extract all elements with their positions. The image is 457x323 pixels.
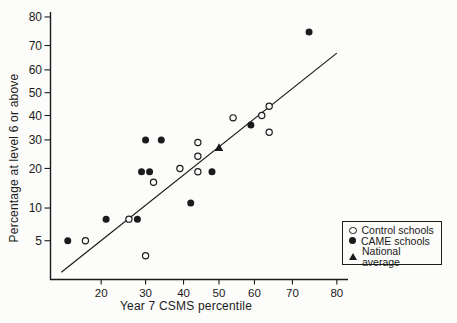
- data-point-control-schools: [195, 153, 201, 159]
- data-point-control-schools: [266, 129, 272, 135]
- data-point-came-schools: [146, 168, 153, 175]
- x-tick-label: 60: [248, 287, 261, 299]
- x-tick-label: 20: [95, 287, 108, 299]
- legend-label-national-average: National average: [362, 246, 439, 267]
- legend-item-national-average: National average: [349, 246, 439, 267]
- open-circle-icon: [349, 227, 357, 235]
- data-point-came-schools: [208, 168, 215, 175]
- x-tick-label: 80: [330, 287, 343, 299]
- data-point-control-schools: [82, 238, 88, 244]
- x-axis-title: Year 7 CSMS percentile: [120, 299, 252, 313]
- scatter-plot-figure: 5102030405060708020304050607080 Percenta…: [0, 0, 457, 323]
- y-tick-label: 50: [29, 86, 43, 100]
- y-tick-label: 40: [29, 109, 43, 123]
- data-point-came-schools: [134, 216, 141, 223]
- data-point-came-schools: [247, 121, 254, 128]
- trend-line: [61, 53, 337, 272]
- data-point-came-schools: [103, 216, 110, 223]
- data-point-control-schools: [259, 112, 265, 118]
- data-point-control-schools: [150, 179, 156, 185]
- y-tick-label: 30: [29, 133, 43, 147]
- data-point-control-schools: [177, 165, 183, 171]
- data-point-control-schools: [126, 216, 132, 222]
- y-tick-label: 5: [35, 234, 42, 248]
- legend-item-control-schools: Control schools: [349, 225, 439, 236]
- y-axis-title: Percentage at level 6 or above: [7, 74, 21, 243]
- data-point-came-schools: [187, 200, 194, 207]
- data-point-came-schools: [64, 237, 71, 244]
- chart-canvas: 5102030405060708020304050607080: [0, 0, 457, 323]
- data-point-came-schools: [158, 136, 165, 143]
- y-tick-label: 80: [29, 10, 43, 24]
- y-tick-label: 20: [29, 162, 43, 176]
- legend-label-control-schools: Control schools: [362, 225, 434, 236]
- x-tick-label: 40: [177, 287, 190, 299]
- legend: Control schools CAME schools National av…: [342, 221, 442, 265]
- data-point-came-schools: [142, 136, 149, 143]
- y-tick-label: 10: [29, 201, 43, 215]
- y-tick-label: 70: [29, 39, 43, 53]
- filled-circle-icon: [349, 237, 356, 244]
- data-point-control-schools: [230, 115, 236, 121]
- data-point-control-schools: [195, 139, 201, 145]
- data-point-came-schools: [306, 28, 313, 35]
- x-tick-label: 50: [213, 287, 226, 299]
- x-tick-label: 30: [139, 287, 152, 299]
- y-tick-label: 60: [29, 63, 43, 77]
- data-point-control-schools: [195, 169, 201, 175]
- filled-triangle-icon: [349, 253, 357, 260]
- data-point-control-schools: [142, 253, 148, 259]
- x-tick-label: 70: [286, 287, 299, 299]
- data-point-control-schools: [266, 103, 272, 109]
- data-point-came-schools: [138, 168, 145, 175]
